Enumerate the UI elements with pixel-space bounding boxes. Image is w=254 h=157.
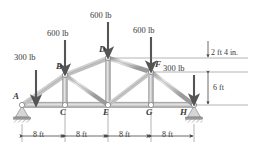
joint-B-icon [62,72,67,77]
member-E-F-edge [108,72,151,105]
member-A-B-edge [22,75,65,105]
joint-label-F: F [155,60,161,69]
joint-label-B: B [56,62,62,71]
dimension-label-span-4: 8 ft [162,131,173,139]
joint-label-C: C [60,108,66,117]
joint-label-H: H [180,108,187,117]
dimension-label-span-3: 8 ft [119,131,130,139]
member-B-E-edge [65,75,108,105]
member-B-D-edge [65,58,108,75]
member-D-F-edge [108,58,151,72]
load-label-D: 600 lb [90,11,112,20]
load-label-A: 300 lb [14,53,36,62]
ground-hatch-H [186,119,203,122]
joint-label-E: E [103,108,109,117]
joint-label-A: A [13,92,19,101]
joint-label-D: D [99,45,106,54]
joint-label-G: G [146,108,153,117]
joint-A-icon [19,102,24,107]
dimension-label-6ft: 6 ft [213,84,224,92]
support-H [186,106,203,123]
member-F-G [149,72,154,105]
ground-hatch-A [14,119,31,122]
support-base-H [186,117,203,119]
dimension-label-span-1: 8 ft [33,131,44,139]
support-base-A [14,117,31,119]
truss-diagram-figure: 600 lb 600 lb 600 lb 300 lb 300 lb A B C… [0,0,254,157]
load-label-H: 300 lb [163,64,185,73]
member-D-E [106,58,111,105]
dimension-label-2ft4in: 2 ft 4 in. [211,49,238,57]
member-B-C [63,75,68,105]
support-A [14,106,31,123]
member-F-H-edge [151,72,194,105]
load-label-F: 600 lb [133,26,155,35]
load-label-B: 600 lb [47,29,69,38]
dimension-label-span-2: 8 ft [76,131,87,139]
